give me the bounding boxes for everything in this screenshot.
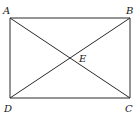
geometry-diagram: A B E D C	[0, 0, 140, 118]
label-e: E	[78, 53, 87, 64]
label-c: C	[125, 103, 133, 114]
label-a: A	[2, 5, 10, 16]
label-d: D	[3, 103, 12, 114]
label-b: B	[125, 5, 133, 16]
